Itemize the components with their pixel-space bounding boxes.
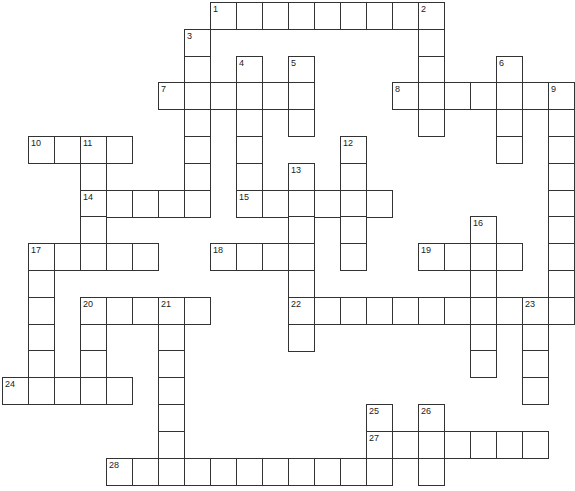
crossword-cell[interactable] xyxy=(28,377,55,405)
crossword-cell[interactable] xyxy=(28,297,55,325)
crossword-cell[interactable]: 7 xyxy=(158,82,185,110)
crossword-cell[interactable] xyxy=(80,216,107,244)
crossword-cell[interactable] xyxy=(548,297,575,325)
crossword-cell[interactable] xyxy=(470,350,497,378)
crossword-cell[interactable] xyxy=(470,243,497,271)
crossword-cell[interactable] xyxy=(236,2,263,30)
crossword-cell[interactable] xyxy=(470,431,497,459)
crossword-cell[interactable]: 16 xyxy=(470,216,497,244)
crossword-cell[interactable] xyxy=(262,82,289,110)
crossword-cell[interactable] xyxy=(80,350,107,378)
crossword-cell[interactable] xyxy=(184,56,211,84)
crossword-cell[interactable] xyxy=(392,431,419,459)
crossword-cell[interactable] xyxy=(340,458,367,486)
crossword-cell[interactable] xyxy=(340,163,367,191)
crossword-cell[interactable] xyxy=(418,297,445,325)
crossword-cell[interactable] xyxy=(496,136,523,164)
crossword-cell[interactable] xyxy=(522,350,549,378)
crossword-cell[interactable] xyxy=(496,431,523,459)
crossword-cell[interactable] xyxy=(106,243,133,271)
crossword-cell[interactable]: 26 xyxy=(418,404,445,432)
crossword-cell[interactable] xyxy=(314,458,341,486)
crossword-cell[interactable]: 17 xyxy=(28,243,55,271)
crossword-cell[interactable] xyxy=(106,297,133,325)
crossword-cell[interactable] xyxy=(522,324,549,352)
crossword-cell[interactable] xyxy=(288,270,315,298)
crossword-cell[interactable] xyxy=(262,190,289,218)
crossword-cell[interactable] xyxy=(80,243,107,271)
crossword-cell[interactable]: 27 xyxy=(366,431,393,459)
crossword-cell[interactable] xyxy=(158,324,185,352)
crossword-cell[interactable]: 18 xyxy=(210,243,237,271)
crossword-cell[interactable] xyxy=(366,458,393,486)
crossword-cell[interactable] xyxy=(288,216,315,244)
crossword-cell[interactable] xyxy=(470,324,497,352)
crossword-cell[interactable]: 3 xyxy=(184,29,211,57)
crossword-cell[interactable] xyxy=(366,297,393,325)
crossword-cell[interactable] xyxy=(132,190,159,218)
crossword-cell[interactable]: 28 xyxy=(106,458,133,486)
crossword-cell[interactable] xyxy=(184,136,211,164)
crossword-cell[interactable] xyxy=(80,377,107,405)
crossword-cell[interactable] xyxy=(340,190,367,218)
crossword-cell[interactable] xyxy=(418,56,445,84)
crossword-cell[interactable]: 6 xyxy=(496,56,523,84)
crossword-cell[interactable] xyxy=(548,190,575,218)
crossword-cell[interactable] xyxy=(392,297,419,325)
crossword-cell[interactable] xyxy=(28,350,55,378)
crossword-cell[interactable]: 4 xyxy=(236,56,263,84)
crossword-cell[interactable]: 12 xyxy=(340,136,367,164)
crossword-cell[interactable]: 24 xyxy=(2,377,29,405)
crossword-cell[interactable] xyxy=(132,458,159,486)
crossword-cell[interactable]: 23 xyxy=(522,297,549,325)
crossword-cell[interactable]: 22 xyxy=(288,297,315,325)
crossword-cell[interactable] xyxy=(158,190,185,218)
crossword-cell[interactable] xyxy=(184,82,211,110)
crossword-cell[interactable] xyxy=(340,297,367,325)
crossword-cell[interactable] xyxy=(548,270,575,298)
crossword-cell[interactable] xyxy=(54,136,81,164)
crossword-cell[interactable] xyxy=(314,190,341,218)
crossword-cell[interactable]: 5 xyxy=(288,56,315,84)
crossword-cell[interactable] xyxy=(158,377,185,405)
crossword-cell[interactable] xyxy=(158,431,185,459)
crossword-cell[interactable] xyxy=(366,190,393,218)
crossword-cell[interactable] xyxy=(158,404,185,432)
crossword-cell[interactable]: 9 xyxy=(548,82,575,110)
crossword-cell[interactable] xyxy=(496,243,523,271)
crossword-cell[interactable]: 15 xyxy=(236,190,263,218)
crossword-cell[interactable] xyxy=(288,109,315,137)
crossword-cell[interactable] xyxy=(132,243,159,271)
crossword-cell[interactable]: 2 xyxy=(418,2,445,30)
crossword-cell[interactable] xyxy=(444,431,471,459)
crossword-cell[interactable] xyxy=(54,377,81,405)
crossword-cell[interactable] xyxy=(548,243,575,271)
crossword-cell[interactable]: 21 xyxy=(158,297,185,325)
crossword-cell[interactable] xyxy=(392,2,419,30)
crossword-cell[interactable] xyxy=(236,109,263,137)
crossword-cell[interactable] xyxy=(236,243,263,271)
crossword-cell[interactable] xyxy=(548,136,575,164)
crossword-cell[interactable]: 25 xyxy=(366,404,393,432)
crossword-cell[interactable] xyxy=(444,243,471,271)
crossword-cell[interactable]: 13 xyxy=(288,163,315,191)
crossword-cell[interactable] xyxy=(132,297,159,325)
crossword-cell[interactable] xyxy=(548,163,575,191)
crossword-cell[interactable] xyxy=(496,297,523,325)
crossword-cell[interactable] xyxy=(418,29,445,57)
crossword-cell[interactable] xyxy=(28,324,55,352)
crossword-cell[interactable]: 20 xyxy=(80,297,107,325)
crossword-cell[interactable] xyxy=(522,431,549,459)
crossword-cell[interactable] xyxy=(418,82,445,110)
crossword-cell[interactable]: 19 xyxy=(418,243,445,271)
crossword-cell[interactable] xyxy=(288,243,315,271)
crossword-cell[interactable] xyxy=(80,324,107,352)
crossword-cell[interactable] xyxy=(106,190,133,218)
crossword-cell[interactable] xyxy=(418,458,445,486)
crossword-cell[interactable] xyxy=(210,82,237,110)
crossword-cell[interactable] xyxy=(184,297,211,325)
crossword-cell[interactable] xyxy=(288,190,315,218)
crossword-cell[interactable] xyxy=(522,82,549,110)
crossword-cell[interactable] xyxy=(262,2,289,30)
crossword-cell[interactable] xyxy=(262,458,289,486)
